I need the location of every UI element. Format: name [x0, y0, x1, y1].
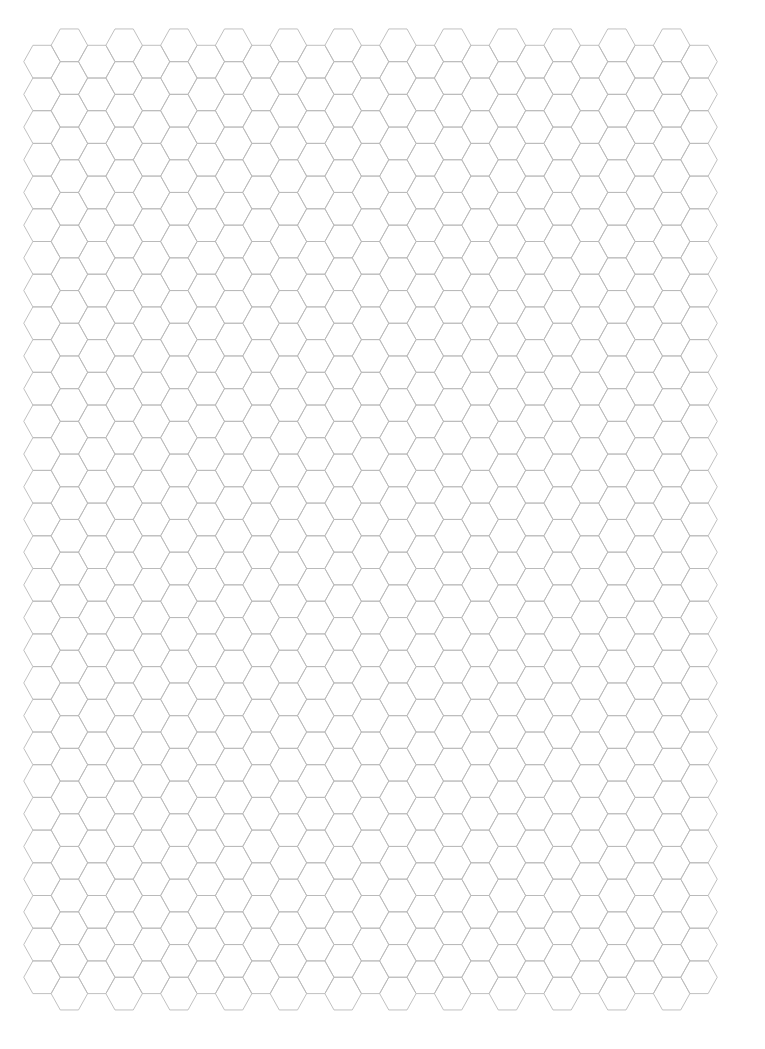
hex-cells — [24, 29, 718, 1010]
hex-grid — [0, 0, 765, 1049]
hex-grid-page: Hexagonal grid paper — [0, 0, 765, 1049]
